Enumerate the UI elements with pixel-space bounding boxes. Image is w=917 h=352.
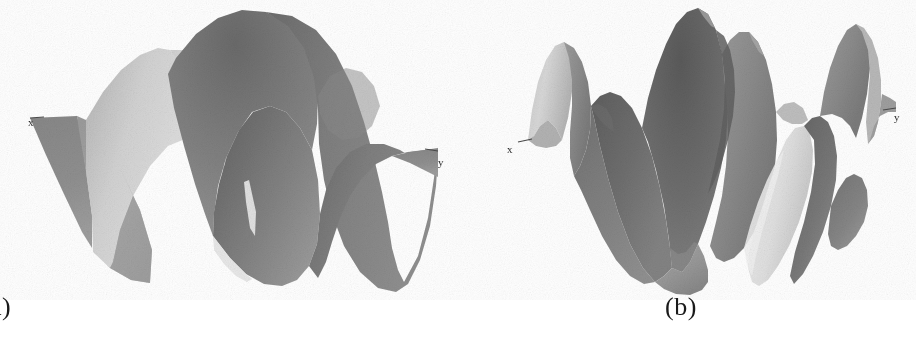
- axis-label-x-a: x: [28, 117, 34, 128]
- axis-label-x-b: x: [507, 144, 513, 155]
- surface-plot-a: [0, 0, 458, 300]
- panel-caption-a: (a): [0, 292, 225, 322]
- figure-panel-a: x y (a): [0, 0, 458, 352]
- figure-panel-b: x y (b): [458, 0, 916, 352]
- panel-caption-b: (b): [452, 292, 910, 322]
- axis-label-y-a: y: [438, 157, 444, 168]
- surface-plot-b: [458, 0, 916, 300]
- surface-mesh-b: [528, 8, 896, 295]
- axis-label-y-b: y: [894, 112, 900, 123]
- figure-container: x y (a): [0, 0, 917, 352]
- surface-mesh-a: [30, 10, 438, 292]
